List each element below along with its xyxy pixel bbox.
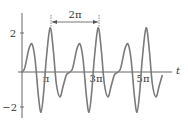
arrow-right-icon: [93, 20, 98, 24]
period-label: 2π: [69, 9, 82, 20]
x-tick-label-5pi: 5π: [137, 73, 150, 84]
y-tick-label-neg2: −2: [2, 102, 17, 113]
y-tick-label-2: 2: [10, 28, 16, 39]
period-annotation: 2π: [51, 9, 99, 27]
arrow-left-icon: [52, 20, 57, 24]
x-tick-label-3pi: 3π: [90, 73, 103, 84]
waveform-curve: [22, 28, 162, 113]
chart: 2 −2 π 3π 5π t 2π: [0, 0, 188, 121]
x-axis-label: t: [176, 65, 181, 76]
